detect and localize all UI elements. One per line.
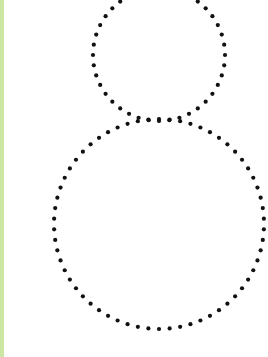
dot bbox=[98, 23, 102, 27]
dot bbox=[104, 14, 108, 18]
dot bbox=[146, 326, 150, 330]
dot bbox=[97, 308, 101, 312]
dot bbox=[106, 314, 110, 318]
dot bbox=[187, 112, 191, 116]
dot bbox=[233, 294, 237, 298]
dot bbox=[115, 318, 119, 322]
dot bbox=[217, 136, 221, 140]
dot bbox=[251, 268, 255, 272]
dot bbox=[246, 277, 250, 281]
dot bbox=[146, 117, 150, 121]
dot bbox=[255, 258, 259, 262]
dot bbox=[196, 106, 200, 110]
dot bbox=[63, 176, 67, 180]
dot bbox=[74, 286, 78, 290]
dot bbox=[225, 302, 229, 306]
dot bbox=[89, 142, 93, 146]
dot bbox=[157, 327, 161, 331]
dot bbox=[52, 217, 56, 221]
dot bbox=[136, 119, 140, 123]
dot bbox=[208, 130, 212, 134]
dot bbox=[168, 117, 172, 121]
dot bbox=[217, 308, 221, 312]
dot bbox=[97, 136, 101, 140]
dot bbox=[210, 92, 214, 96]
dot bbox=[233, 150, 237, 154]
dot bbox=[52, 227, 56, 231]
dot bbox=[94, 33, 98, 37]
dot bbox=[240, 158, 244, 162]
dot bbox=[220, 33, 224, 37]
dot bbox=[81, 150, 85, 154]
dot bbox=[115, 125, 119, 129]
dot bbox=[98, 83, 102, 87]
dot bbox=[262, 227, 266, 231]
dot bbox=[246, 166, 250, 170]
dot bbox=[157, 117, 161, 121]
dot bbox=[58, 185, 62, 189]
dot bbox=[110, 100, 114, 104]
dot bbox=[196, 0, 200, 4]
dot bbox=[222, 43, 226, 47]
dot bbox=[104, 92, 108, 96]
dot bbox=[125, 122, 129, 126]
dot bbox=[259, 248, 263, 252]
dot bbox=[255, 185, 259, 189]
dot bbox=[118, 0, 122, 4]
dot bbox=[198, 125, 202, 129]
dot bbox=[92, 43, 96, 47]
dot bbox=[55, 196, 59, 200]
dot bbox=[81, 294, 85, 298]
dot bbox=[110, 6, 114, 10]
dot bbox=[53, 238, 57, 242]
dot bbox=[92, 63, 96, 67]
dot bbox=[118, 106, 122, 110]
dot bbox=[204, 100, 208, 104]
dot bbox=[94, 73, 98, 77]
dot bbox=[125, 322, 129, 326]
dot bbox=[225, 142, 229, 146]
dot bbox=[178, 119, 182, 123]
dot bbox=[222, 63, 226, 67]
dot bbox=[178, 325, 182, 329]
dot bbox=[261, 206, 265, 210]
dot bbox=[74, 158, 78, 162]
dot bbox=[106, 130, 110, 134]
dot bbox=[262, 217, 266, 221]
dot bbox=[68, 166, 72, 170]
dot bbox=[208, 314, 212, 318]
dot bbox=[63, 268, 67, 272]
dot bbox=[68, 277, 72, 281]
dot bbox=[210, 14, 214, 18]
dot bbox=[91, 53, 95, 57]
dot bbox=[261, 238, 265, 242]
dot bbox=[188, 122, 192, 126]
dot bbox=[251, 176, 255, 180]
dot bbox=[198, 318, 202, 322]
dot bbox=[168, 326, 172, 330]
dot bbox=[127, 112, 131, 116]
dot bbox=[216, 83, 220, 87]
dot bbox=[89, 302, 93, 306]
dot bbox=[220, 73, 224, 77]
dot bbox=[53, 206, 57, 210]
dot bbox=[55, 248, 59, 252]
diagram-canvas bbox=[0, 0, 268, 357]
dot bbox=[223, 53, 227, 57]
dot bbox=[188, 322, 192, 326]
dot bbox=[216, 23, 220, 27]
dot bbox=[204, 6, 208, 10]
bottom-dotted-circle bbox=[52, 117, 266, 331]
dot bbox=[240, 286, 244, 290]
dot bbox=[259, 196, 263, 200]
dot bbox=[136, 325, 140, 329]
dot bbox=[58, 258, 62, 262]
top-dotted-circle bbox=[91, 0, 227, 123]
